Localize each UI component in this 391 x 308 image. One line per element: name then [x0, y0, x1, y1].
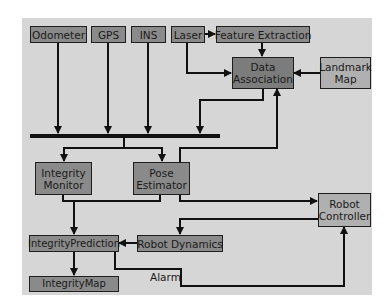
node-laser: Laser [171, 26, 205, 43]
node-robot-dynamics: Robot Dynamics [137, 235, 223, 252]
node-integrity-monitor: Integrity Monitor [35, 162, 92, 195]
connector-lines [0, 0, 391, 308]
node-feature-extraction: Feature Extraction [216, 26, 310, 43]
node-label: INS [140, 29, 158, 41]
node-label: IntegrityMap [42, 278, 106, 290]
node-label: GPS [98, 29, 119, 41]
node-label: Odometer [32, 29, 85, 41]
node-integrity-map: IntegrityMap [29, 276, 119, 292]
node-integrity-prediction: IntegrityPrediction [29, 235, 119, 252]
alarm-edge-label: Alarm [150, 271, 181, 283]
node-robot-controller: Robot Controller [318, 193, 371, 227]
data-bus-bar [30, 134, 220, 138]
node-label: Pose Estimator [136, 167, 187, 191]
node-label: Landmark Map [319, 61, 372, 85]
node-label: Laser [174, 29, 203, 41]
node-gps: GPS [91, 26, 126, 43]
node-landmark-map: Landmark Map [320, 57, 371, 89]
node-label: Integrity Monitor [40, 167, 87, 191]
node-label: Robot Controller [319, 198, 371, 222]
node-label: Feature Extraction [215, 29, 312, 41]
node-label: IntegrityPrediction [28, 238, 120, 250]
node-label: Data Association [233, 61, 293, 85]
node-ins: INS [131, 26, 166, 43]
node-odometer: Odometer [30, 26, 87, 43]
node-label: Robot Dynamics [137, 238, 223, 250]
node-pose-estimator: Pose Estimator [133, 162, 190, 195]
node-data-association: Data Association [232, 57, 294, 89]
